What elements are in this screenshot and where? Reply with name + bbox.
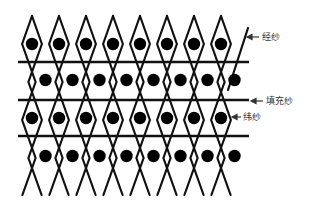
label-weft-yarn: 纬纱 (243, 112, 261, 122)
filler-yarn-dot (39, 150, 51, 162)
filler-yarn-dot (188, 38, 200, 50)
filler-yarn-dot (93, 74, 105, 86)
filler-yarn-dot (53, 38, 65, 50)
filler-yarn-dot (93, 150, 105, 162)
filler-yarn-dot (161, 38, 173, 50)
filler-yarn-dot (120, 74, 132, 86)
filler-yarn-dot (174, 74, 186, 86)
filler-yarn-dot (161, 112, 173, 124)
filler-yarn-dot (201, 150, 213, 162)
filler-yarn-dot (26, 38, 38, 50)
weft-arrow-head (232, 115, 237, 120)
filler-yarn-dot (174, 150, 186, 162)
filler-yarn-dot (188, 112, 200, 124)
filler-yarn-dot (215, 38, 227, 50)
filler-yarn-dot (80, 38, 92, 50)
filler-yarn-dot (228, 150, 240, 162)
filler-yarn-dot (134, 38, 146, 50)
filler-yarn-dot (107, 38, 119, 50)
filler-yarn-dot (228, 74, 240, 86)
filler-yarn-dot (26, 112, 38, 124)
filler-yarn-dot (215, 112, 227, 124)
filler-yarn-dot (147, 74, 159, 86)
filler-arrow-head (251, 99, 256, 104)
filler-yarn-dot (66, 74, 78, 86)
filler-yarn-dot (201, 74, 213, 86)
filler-yarn-dot (120, 150, 132, 162)
filler-yarn-dot (134, 112, 146, 124)
filler-yarn-dot (66, 150, 78, 162)
warp-arrow-head (247, 35, 252, 40)
filler-yarn-dot (107, 112, 119, 124)
filler-yarn-dot (80, 112, 92, 124)
filler-yarn-dot (147, 150, 159, 162)
label-warp-yarn: 经纱 (262, 32, 280, 42)
weft-yarn-lines (18, 62, 249, 136)
filler-yarn-dot (39, 74, 51, 86)
filler-yarn-dot (53, 112, 65, 124)
label-filler-yarn: 填充纱 (266, 96, 293, 106)
